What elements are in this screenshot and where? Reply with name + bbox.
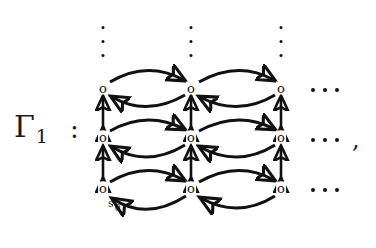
ellipsis-dot (311, 88, 315, 92)
vertical-ellipsis-col-1 (190, 26, 193, 57)
graph-edges (0, 0, 376, 248)
figure-canvas: Γ1 : (0, 0, 376, 248)
node-r1-c0: o (98, 131, 108, 144)
ellipsis-dot (280, 40, 283, 43)
horizontal-ellipsis-row-1 (311, 138, 339, 142)
node-r2-c0: o (98, 182, 108, 195)
ellipsis-dot (323, 88, 327, 92)
edge-r1-c1-to-c0-lower (112, 145, 185, 157)
ellipsis-dot (190, 54, 193, 57)
ellipsis-dot (280, 26, 283, 29)
vertical-ellipsis-col-0 (102, 26, 105, 57)
ellipsis-dot (311, 188, 315, 192)
node-r2-c1: o (186, 182, 196, 195)
ellipsis-dot (102, 26, 105, 29)
edge-r2-c2-to-c1-lower (201, 196, 275, 208)
ellipsis-dot (102, 54, 105, 57)
edge-r2-c1-to-c0-lower (113, 196, 186, 209)
ellipsis-dot (335, 188, 339, 192)
edge-r1-c1-to-c2-upper (199, 120, 274, 131)
node-r0-c0: o (98, 82, 108, 95)
ellipsis-dot (311, 138, 315, 142)
edge-r1-c2-to-c1-lower (200, 145, 275, 157)
ellipsis-dot (335, 88, 339, 92)
edge-r1-c0-to-c1-upper (110, 120, 184, 131)
edge-r0-c1-to-c0-lower (112, 95, 185, 107)
edge-r2-c1-to-c2-upper (199, 170, 274, 182)
ellipsis-dot (323, 138, 327, 142)
horizontal-ellipsis-row-0 (311, 88, 339, 92)
node-r0-c2: o (276, 82, 286, 95)
ellipsis-dot (190, 40, 193, 43)
start-state-label: s0 (108, 198, 120, 213)
node-r2-c2: o (276, 182, 286, 195)
edge-r2-c0-to-c1-upper (110, 170, 184, 182)
ellipsis-dot (323, 188, 327, 192)
ellipsis-dot (335, 138, 339, 142)
horizontal-ellipsis-row-2 (311, 188, 339, 192)
ellipsis-dot (190, 26, 193, 29)
node-r1-c2: o (276, 131, 286, 144)
node-r1-c1: o (186, 131, 196, 144)
start-state-subscript: 0 (114, 203, 121, 213)
vertical-ellipsis-col-2 (280, 26, 283, 57)
start-state-symbol: s (108, 197, 114, 210)
node-r0-c1: o (186, 82, 196, 95)
ellipsis-dot (280, 54, 283, 57)
edge-r0-c1-to-c2-upper (199, 70, 274, 82)
edge-r0-c0-to-c1-upper (110, 70, 184, 82)
ellipsis-dot (102, 40, 105, 43)
edge-r0-c2-to-c1-lower (200, 95, 275, 107)
